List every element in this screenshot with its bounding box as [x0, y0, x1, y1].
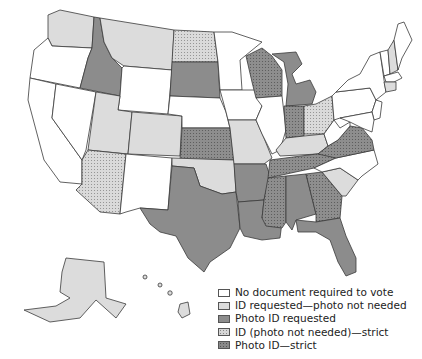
- legend-label: No document required to vote: [235, 286, 393, 299]
- state-ct: [384, 82, 396, 92]
- legend-swatch-dark-dotted: [218, 341, 230, 349]
- state-hi: [178, 302, 190, 318]
- legend-item-no-document: No document required to vote: [218, 286, 407, 299]
- state-fl: [296, 218, 356, 276]
- state-wy: [118, 66, 172, 114]
- legend-swatch-light: [218, 302, 230, 310]
- legend-swatch-dark: [218, 315, 230, 323]
- state-ks: [180, 128, 234, 160]
- map-legend: No document required to vote ID requeste…: [218, 286, 407, 352]
- legend-swatch-white: [218, 289, 230, 297]
- state-sd: [170, 62, 220, 98]
- state-hi-island: [168, 291, 172, 295]
- legend-label: ID requested—photo not needed: [235, 299, 407, 312]
- state-hi-island: [143, 275, 147, 279]
- legend-label: ID (photo not needed)—strict: [235, 326, 388, 339]
- legend-label: Photo ID—strict: [235, 339, 317, 352]
- state-hi-island: [158, 283, 162, 287]
- legend-item-photo-strict: Photo ID—strict: [218, 339, 407, 352]
- state-ak: [24, 258, 126, 322]
- state-nm: [120, 154, 172, 214]
- states: [24, 10, 412, 322]
- legend-label: Photo ID requested: [235, 312, 336, 325]
- state-wa: [48, 10, 94, 48]
- legend-swatch-light-dotted: [218, 328, 230, 336]
- legend-item-id-requested: ID requested—photo not needed: [218, 299, 407, 312]
- legend-item-photo-requested: Photo ID requested: [218, 312, 407, 325]
- state-az: [76, 150, 126, 214]
- state-me: [394, 22, 412, 70]
- state-co: [128, 112, 182, 156]
- state-nd: [172, 30, 218, 62]
- state-in: [284, 106, 304, 138]
- legend-item-id-strict: ID (photo not needed)—strict: [218, 326, 407, 339]
